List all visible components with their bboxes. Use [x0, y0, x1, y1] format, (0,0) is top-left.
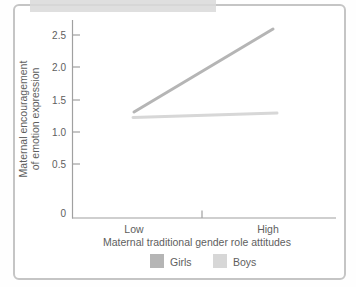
y-tick-label-1_0: 1.0	[52, 127, 66, 138]
y-tick-label-2_0: 2.0	[52, 62, 66, 73]
y-tick-label-2_5: 2.5	[52, 30, 66, 41]
x-category-high: High	[257, 223, 279, 235]
y-tick-label-0: 0	[60, 208, 66, 219]
girls-series-line	[134, 29, 273, 112]
y-tick-label-0_5: 0.5	[52, 159, 66, 170]
legend-label-boys: Boys	[233, 256, 256, 268]
legend-swatch-boys	[213, 254, 227, 268]
line-chart: 2.5 2.0 1.5 1.0 0.5 0 Low High Maternal …	[0, 0, 356, 287]
y-tick-label-1_5: 1.5	[52, 95, 66, 106]
y-axis-title-line1: Maternal encouragement	[17, 61, 29, 178]
x-axis-title: Maternal traditional gender role attitud…	[103, 236, 291, 248]
x-category-low: Low	[124, 223, 144, 235]
legend-swatch-girls	[150, 254, 164, 268]
y-axis-title-line2: of emotion expression	[29, 67, 41, 170]
figure-page: 2.5 2.0 1.5 1.0 0.5 0 Low High Maternal …	[0, 0, 356, 287]
boys-series-line	[133, 113, 277, 118]
legend-label-girls: Girls	[170, 256, 192, 268]
